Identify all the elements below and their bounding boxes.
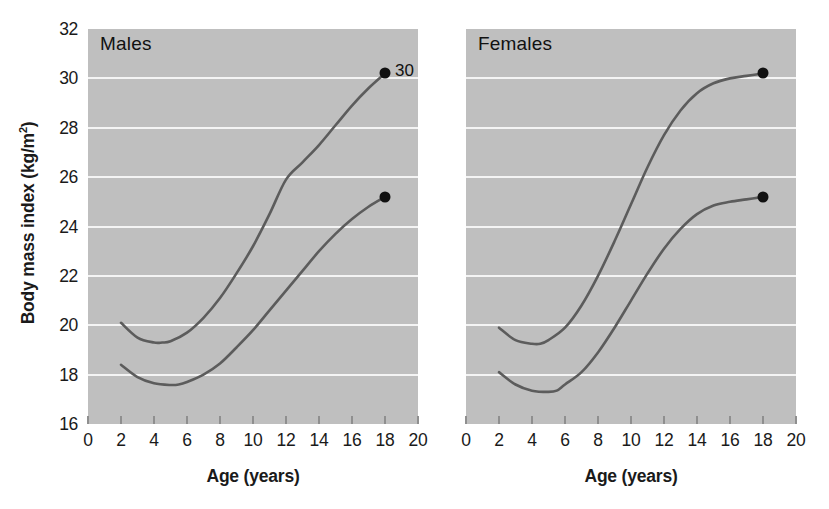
- x-tickmark-6: [564, 416, 566, 424]
- curves-females: [466, 29, 796, 424]
- x-axis-tick-18: 18: [754, 430, 773, 451]
- endpoint-dot-obesity-cutoff-males: [380, 68, 391, 79]
- x-axis-tick-16: 16: [343, 430, 362, 451]
- x-axis-tick-8: 8: [215, 430, 224, 451]
- x-axis-tick-14: 14: [310, 430, 329, 451]
- x-axis-title-males: Age (years): [88, 466, 418, 487]
- y-axis-tick-24: 24: [44, 216, 78, 237]
- x-tickmark-10: [630, 416, 632, 424]
- y-axis-title-text: Body mass index (kg/m: [18, 133, 38, 324]
- x-tickmark-0: [87, 416, 89, 424]
- x-tickmark-6: [186, 416, 188, 424]
- y-axis-tick-28: 28: [44, 117, 78, 138]
- x-tickmark-18: [384, 416, 386, 424]
- x-axis-tick-16: 16: [721, 430, 740, 451]
- curves-males: [88, 29, 418, 424]
- x-tickmark-12: [663, 416, 665, 424]
- x-tickmark-20: [417, 416, 419, 424]
- x-axis-title-females: Age (years): [466, 466, 796, 487]
- x-tickmark-10: [252, 416, 254, 424]
- x-axis-tick-2: 2: [116, 430, 125, 451]
- x-axis-tick-6: 6: [560, 430, 569, 451]
- y-axis-tick-32: 32: [44, 19, 78, 40]
- curve-obesity-cutoff-females: [499, 73, 763, 344]
- x-axis-tick-12: 12: [277, 430, 296, 451]
- y-axis-title: Body mass index (kg/m2): [17, 3, 39, 443]
- x-tickmark-18: [762, 416, 764, 424]
- x-tickmark-12: [285, 416, 287, 424]
- x-axis-tick-6: 6: [182, 430, 191, 451]
- x-tickmark-0: [465, 416, 467, 424]
- x-axis-tick-12: 12: [655, 430, 674, 451]
- panel-males: 30 Males 02468101214161820: [88, 29, 418, 424]
- y-axis-tick-20: 20: [44, 315, 78, 336]
- panel-females: Females 02468101214161820: [466, 29, 796, 424]
- curve-overweight-cutoff-females: [499, 197, 763, 392]
- y-axis-tick-22: 22: [44, 265, 78, 286]
- y-axis-tick-18: 18: [44, 364, 78, 385]
- x-axis-tick-0: 0: [83, 430, 92, 451]
- panel-title-females: Females: [478, 33, 552, 55]
- x-tickmark-8: [597, 416, 599, 424]
- curve-obesity-cutoff-males: [121, 73, 385, 343]
- x-axis-tick-4: 4: [527, 430, 536, 451]
- x-tickmark-14: [318, 416, 320, 424]
- y-axis-tick-26: 26: [44, 167, 78, 188]
- x-tickmark-4: [153, 416, 155, 424]
- endpoint-label-obesity-cutoff-males: 30: [395, 61, 414, 81]
- x-axis-tick-10: 10: [244, 430, 263, 451]
- x-tickmark-20: [795, 416, 797, 424]
- y-axis-tick-30: 30: [44, 68, 78, 89]
- curve-overweight-cutoff-males: [121, 197, 385, 385]
- x-axis-tick-2: 2: [494, 430, 503, 451]
- y-axis-tick-16: 16: [44, 414, 78, 435]
- bmi-growth-chart-figure: Body mass index (kg/m2) 1618202224262830…: [0, 0, 829, 509]
- x-tickmark-2: [498, 416, 500, 424]
- endpoint-dot-obesity-cutoff-females: [758, 68, 769, 79]
- x-axis-tick-18: 18: [376, 430, 395, 451]
- x-tickmark-14: [696, 416, 698, 424]
- x-axis-tick-0: 0: [461, 430, 470, 451]
- x-axis-tick-4: 4: [149, 430, 158, 451]
- x-axis-tick-20: 20: [787, 430, 806, 451]
- x-tickmark-16: [351, 416, 353, 424]
- endpoint-dot-overweight-cutoff-males: [380, 191, 391, 202]
- endpoint-dot-overweight-cutoff-females: [758, 191, 769, 202]
- x-axis-tick-10: 10: [622, 430, 641, 451]
- panel-title-males: Males: [100, 33, 152, 55]
- x-axis-tick-14: 14: [688, 430, 707, 451]
- y-axis-title-superscript: 2: [17, 127, 29, 133]
- x-axis-tick-8: 8: [593, 430, 602, 451]
- x-tickmark-8: [219, 416, 221, 424]
- x-tickmark-4: [531, 416, 533, 424]
- x-axis-tick-20: 20: [409, 430, 428, 451]
- x-tickmark-16: [729, 416, 731, 424]
- x-tickmark-2: [120, 416, 122, 424]
- y-axis-title-close: ): [18, 121, 38, 127]
